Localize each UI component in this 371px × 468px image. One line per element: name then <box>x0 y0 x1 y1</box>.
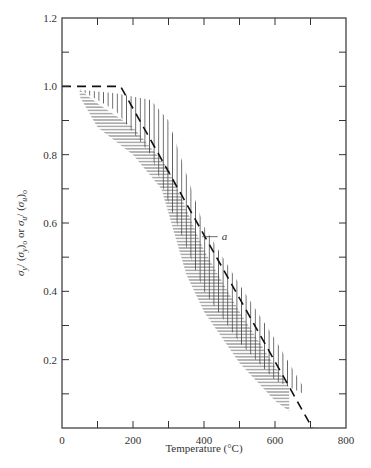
axes-frame <box>62 18 346 428</box>
plot-area: a <box>62 86 312 428</box>
x-tick-label: 800 <box>338 434 355 446</box>
chart: a 02004006008000.20.40.60.81.01.2 Temper… <box>0 0 371 468</box>
y-tick-label: 0.2 <box>43 354 57 366</box>
x-axis-title: Temperature (°C) <box>165 442 243 455</box>
axis-ticks <box>62 18 346 428</box>
x-tick-label: 600 <box>267 434 284 446</box>
svg-text:σy/ (σy)o or σu/ (σu)o: σy/ (σy)o or σu/ (σu)o <box>14 190 29 276</box>
y-tick-label: 0.8 <box>43 149 57 161</box>
x-tick-label: 0 <box>59 434 65 446</box>
y-tick-label: 0.4 <box>43 285 57 297</box>
y-tick-label: 1.2 <box>43 12 57 24</box>
x-tick-label: 200 <box>125 434 142 446</box>
y-axis-title: σy/ (σy)o or σu/ (σu)o <box>14 190 29 276</box>
yield-strength-band <box>80 90 289 411</box>
y-tick-label: 0.6 <box>43 217 57 229</box>
annotation-a-label: a <box>222 230 228 242</box>
y-tick-label: 1.0 <box>43 80 57 92</box>
